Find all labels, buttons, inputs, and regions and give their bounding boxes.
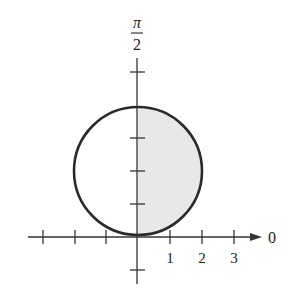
polar-axis-label: 0 xyxy=(268,229,276,246)
tick-label-1: 1 xyxy=(166,250,174,266)
vertical-axis-label-denominator: 2 xyxy=(133,36,141,53)
vertical-axis-label-numerator: π xyxy=(133,14,142,31)
shaded-region xyxy=(138,107,202,235)
polar-axis-arrow-icon xyxy=(250,233,262,241)
polar-diagram: 1 2 3 0 π 2 xyxy=(0,0,294,294)
tick-label-2: 2 xyxy=(198,250,206,266)
tick-label-3: 3 xyxy=(230,250,238,266)
